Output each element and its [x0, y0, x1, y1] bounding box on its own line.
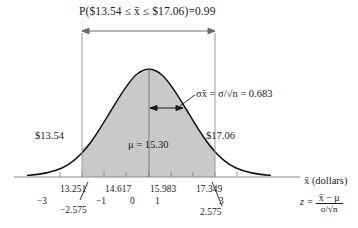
- z-score-formula: z = x̄ − μ σ/√n: [300, 192, 343, 214]
- x-tick-label: 17.349: [196, 184, 222, 194]
- x-axis-title: x̄ (dollars): [304, 176, 347, 187]
- mean-label: μ = 15.30: [128, 140, 168, 151]
- probability-statement: P($13.54 ≤ x̄ ≤ $17.06)=0.99: [79, 6, 216, 18]
- sampling-distribution-figure: P($13.54 ≤ x̄ ≤ $17.06)=0.99 σx̄ = σ/√n …: [0, 0, 358, 228]
- z-formula-denominator: σ/√n: [316, 204, 343, 214]
- x-tick-label: 13.251: [60, 184, 86, 194]
- z-tick-label: 1: [155, 196, 160, 206]
- z-tick-label: −3: [37, 196, 47, 206]
- z-formula-fraction: x̄ − μ σ/√n: [316, 192, 343, 214]
- z-tick-label: −2.575: [60, 205, 87, 215]
- sigma-leader-line: [180, 95, 195, 106]
- lower-bound-label: $13.54: [35, 131, 64, 142]
- interval-span-arrow: [82, 28, 215, 34]
- z-tick-label: 3: [219, 196, 224, 206]
- z-formula-lhs: z =: [300, 196, 313, 207]
- z-tick-label: −1: [96, 196, 106, 206]
- z-tick-label: 2.575: [200, 207, 221, 217]
- z-formula-numerator: x̄ − μ: [316, 192, 343, 204]
- standard-error-annotation: σx̄ = σ/√n = 0.683: [196, 89, 272, 100]
- x-tick-label: 15.983: [150, 184, 176, 194]
- x-tick-label: 14.617: [105, 184, 131, 194]
- upper-bound-label: $17.06: [206, 131, 235, 142]
- z-tick-label: 0: [130, 196, 135, 206]
